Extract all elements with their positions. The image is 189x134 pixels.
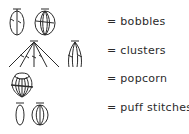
label-bobbles: = bobbles bbox=[107, 15, 166, 28]
label-popcorn: = popcorn bbox=[107, 72, 167, 85]
bobble-large-icon bbox=[34, 8, 56, 36]
label-puff-stitches: = puff stitches bbox=[107, 101, 189, 114]
cluster-fan-icon bbox=[8, 40, 60, 68]
puff-small-icon bbox=[14, 102, 26, 126]
puff-large-icon bbox=[30, 102, 50, 126]
label-clusters: = clusters bbox=[107, 44, 166, 57]
bobble-small-icon bbox=[7, 8, 27, 36]
popcorn-icon bbox=[10, 72, 34, 98]
cluster-narrow-icon bbox=[66, 40, 84, 68]
